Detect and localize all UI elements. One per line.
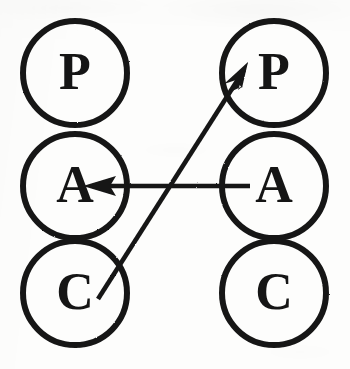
node-label-right-c: C xyxy=(248,266,300,318)
node-label-left-a: A xyxy=(49,159,101,211)
figure-canvas: P A C P A C xyxy=(0,0,350,369)
node-label-left-p: P xyxy=(49,46,101,98)
node-label-left-c: C xyxy=(49,266,101,318)
node-label-right-a: A xyxy=(248,159,300,211)
node-label-right-p: P xyxy=(248,46,300,98)
